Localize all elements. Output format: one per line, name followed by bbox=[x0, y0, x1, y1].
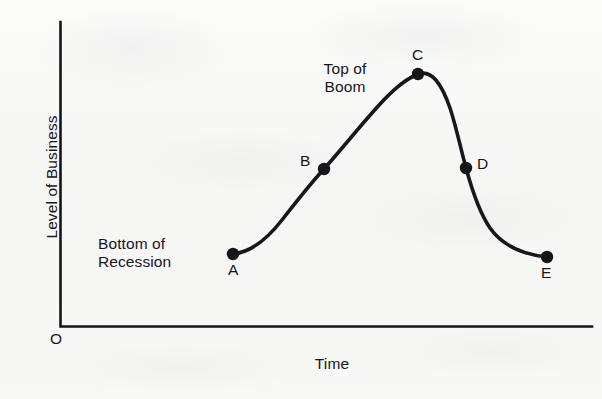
data-point-e bbox=[541, 251, 553, 263]
annotation-bottom-of-recession-line2: Recession bbox=[98, 253, 216, 271]
x-axis-title: Time bbox=[272, 355, 392, 373]
y-axis-title: Level of Business bbox=[43, 77, 61, 277]
point-label-b: B bbox=[300, 152, 310, 170]
business-cycle-figure: Level of Business Time O Top of Boom Bot… bbox=[0, 0, 602, 399]
data-point-markers bbox=[227, 68, 553, 263]
data-point-c bbox=[412, 68, 424, 80]
point-label-d: D bbox=[477, 155, 488, 173]
point-label-a: A bbox=[228, 261, 238, 279]
annotation-top-of-boom-line2: Boom bbox=[299, 78, 391, 96]
data-point-d bbox=[460, 162, 472, 174]
point-label-c: C bbox=[412, 46, 423, 64]
data-point-b bbox=[318, 163, 330, 175]
business-cycle-line bbox=[233, 73, 547, 257]
point-label-e: E bbox=[541, 264, 551, 282]
data-point-a bbox=[227, 248, 239, 260]
annotation-top-of-boom: Top of Boom bbox=[299, 60, 391, 96]
cycle-curve-group bbox=[233, 73, 547, 257]
origin-label: O bbox=[50, 330, 62, 348]
annotation-bottom-of-recession: Bottom of Recession bbox=[98, 235, 216, 271]
annotation-bottom-of-recession-line1: Bottom of bbox=[98, 235, 216, 253]
annotation-top-of-boom-line1: Top of bbox=[299, 60, 391, 78]
